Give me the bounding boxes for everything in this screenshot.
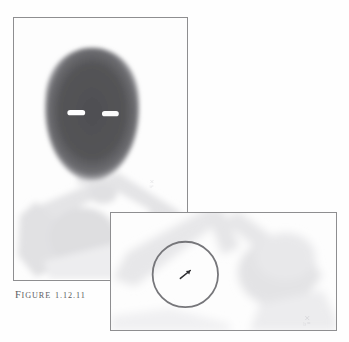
svg-text:b: b [303, 321, 306, 327]
right-orbital-cold-spot [102, 111, 119, 116]
inset-detail-panel: b [110, 212, 337, 331]
left-orbital-cold-spot [67, 110, 85, 115]
figure-caption-word: FIGURE [15, 289, 51, 300]
figure-root: b [0, 0, 349, 342]
inset-scan-image: b [111, 213, 336, 331]
figure-caption-smallcaps: IGURE [22, 291, 52, 300]
figure-caption-number: 1.12.11 [55, 291, 86, 300]
figure-caption: FIGURE1.12.11 [15, 285, 86, 301]
